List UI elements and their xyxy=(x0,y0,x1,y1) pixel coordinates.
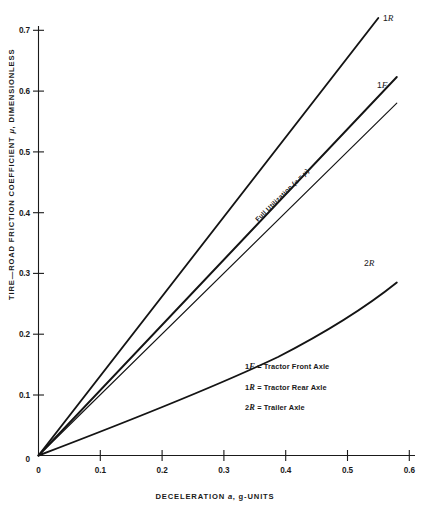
curve-label-1F: 1F xyxy=(377,80,388,90)
x-tick-label: 0.5 xyxy=(342,466,354,475)
x-tick-label: 0.3 xyxy=(218,466,230,475)
x-axis-title: DECELERATION a, g-UNITS xyxy=(155,492,274,501)
curve-label-1R: 1R xyxy=(383,13,394,23)
x-tick-label: 0.1 xyxy=(95,466,107,475)
figure-container: 0.7 0.6 0.5 0.4 0.3 0.2 0.1 0 TIRE—ROAD … xyxy=(0,0,430,511)
x-tick-label: 0.2 xyxy=(157,466,169,475)
legend-item-1F: 1F = Tractor Front Axle xyxy=(245,362,329,371)
y-tick-label: 0.2 xyxy=(19,330,31,339)
y-tick-label-zero: 0 xyxy=(26,455,31,464)
y-tick-label: 0.3 xyxy=(19,269,31,278)
y-axis-title: TIRE—ROAD FRICTION COEFFICIENT μ, DIMENS… xyxy=(7,49,16,300)
friction-deceleration-chart: 0.7 0.6 0.5 0.4 0.3 0.2 0.1 0 TIRE—ROAD … xyxy=(0,0,430,511)
legend-item-2R: 2R = Trailer Axle xyxy=(245,403,305,412)
x-tick-label: 0.4 xyxy=(280,466,292,475)
x-axis-title-suffix: , g-UNITS xyxy=(233,492,275,501)
x-axis-title-prefix: DECELERATION xyxy=(155,492,228,501)
y-tick-label: 0.7 xyxy=(19,26,31,35)
legend-item-1R: 1R = Tractor Rear Axle xyxy=(245,383,327,392)
y-tick-label: 0.1 xyxy=(19,391,31,400)
y-axis-title-prefix: TIRE—ROAD FRICTION COEFFICIENT xyxy=(7,134,16,300)
chart-background xyxy=(0,0,430,511)
y-tick-label: 0.5 xyxy=(19,148,31,157)
legend-item-2R-text: Trailer Axle xyxy=(264,403,305,412)
x-tick-label: 0 xyxy=(36,466,41,475)
x-tick-label: 0.6 xyxy=(404,466,416,475)
curve-label-2R: 2R xyxy=(364,258,375,268)
legend-item-1F-text: Tractor Front Axle xyxy=(264,362,330,371)
y-tick-label: 0.6 xyxy=(19,87,31,96)
y-tick-label: 0.4 xyxy=(19,209,31,218)
legend-item-1R-text: Tractor Rear Axle xyxy=(264,383,327,392)
y-axis-title-suffix: , DIMENSIONLESS xyxy=(7,49,16,129)
